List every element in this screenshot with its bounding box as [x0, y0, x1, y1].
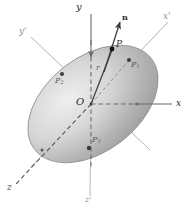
point-label-P1-sub: 1 — [136, 63, 139, 69]
point-P2-dot — [60, 72, 64, 76]
point-label-P1: P1 — [131, 61, 140, 69]
axis-label-y: y — [76, 2, 82, 12]
vector-n-label: n — [122, 13, 128, 21]
tick-z-axis — [41, 149, 44, 152]
point-label-P2-sub: 2 — [60, 79, 63, 85]
axis-label-z-prime: z' — [85, 196, 91, 204]
origin-dot — [90, 103, 93, 106]
point-label-P: P — [116, 40, 122, 49]
vector-diagram-figure: y x z x' y' z' O n r P P1 P2 P3 — [0, 0, 187, 212]
tick-x-axis — [136, 103, 139, 106]
point-label-P3: P3 — [92, 136, 101, 144]
axis-label-x: x — [176, 99, 181, 108]
origin-label: O — [76, 97, 84, 107]
point-label-P2: P2 — [55, 77, 64, 85]
axis-label-x-prime: x' — [163, 12, 171, 21]
point-P-dot — [110, 47, 115, 52]
axis-label-z: z — [7, 183, 12, 192]
point-label-P3-sub: 3 — [97, 138, 100, 144]
axis-label-y-prime: y' — [19, 27, 27, 36]
diagram-canvas — [0, 0, 187, 212]
point-P3-dot — [87, 146, 91, 150]
vector-r-label: r — [96, 64, 100, 72]
